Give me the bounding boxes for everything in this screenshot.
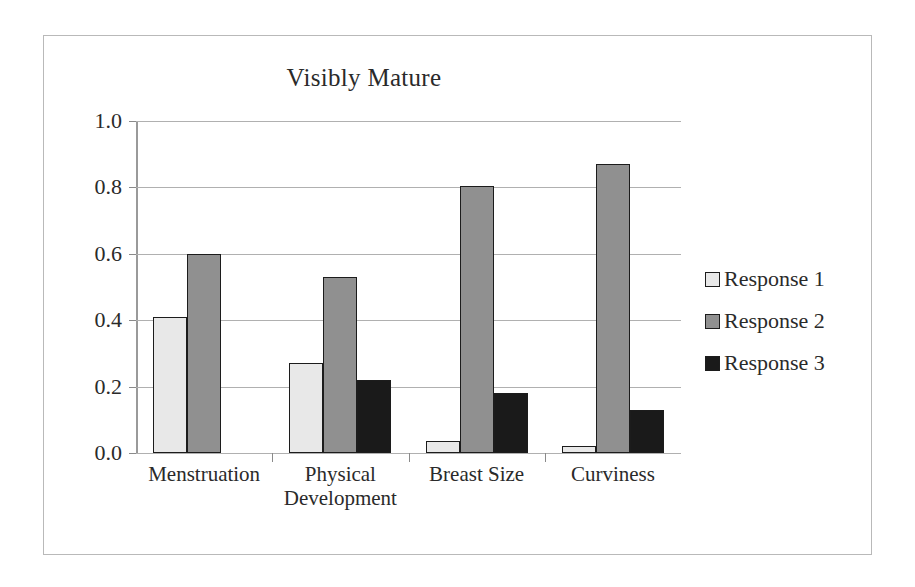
y-axis-label-0.6: 0.6 <box>95 241 123 267</box>
y-tick-0.0 <box>129 453 136 454</box>
bar-group <box>562 121 664 453</box>
chart-legend: Response 1Response 2Response 3 <box>705 266 825 376</box>
bar-group <box>153 121 255 453</box>
chart-title: Visibly Mature <box>44 64 684 92</box>
bar[interactable] <box>289 363 323 453</box>
legend-item[interactable]: Response 3 <box>705 350 825 376</box>
category-label-line: Development <box>284 487 397 511</box>
bar-group <box>426 121 528 453</box>
bar[interactable] <box>357 380 391 453</box>
bar[interactable] <box>630 410 664 453</box>
category-label-line: Menstruation <box>148 463 260 487</box>
bar[interactable] <box>153 317 187 453</box>
category-label-line: Physical <box>284 463 397 487</box>
y-axis-line <box>136 121 138 453</box>
category-separator-tick <box>272 453 273 462</box>
legend-label: Response 2 <box>724 308 825 334</box>
bar[interactable] <box>426 441 460 453</box>
chart-frame: Visibly Mature 0.00.20.40.60.81.0 Menstr… <box>43 35 872 555</box>
x-axis-label-menstruation: Menstruation <box>148 463 260 487</box>
x-axis-label-physical-development: PhysicalDevelopment <box>284 463 397 511</box>
legend-item[interactable]: Response 1 <box>705 266 825 292</box>
legend-swatch-icon <box>705 314 720 329</box>
legend-swatch-icon <box>705 272 720 287</box>
y-axis-label-0.2: 0.2 <box>95 374 123 400</box>
category-separator-tick <box>545 453 546 462</box>
bar-group <box>289 121 391 453</box>
x-axis-label-breast-size: Breast Size <box>429 463 524 487</box>
legend-swatch-icon <box>705 356 720 371</box>
y-tick-0.8 <box>129 187 136 188</box>
bar[interactable] <box>562 446 596 453</box>
y-tick-1.0 <box>129 121 136 122</box>
y-tick-0.2 <box>129 387 136 388</box>
category-label-line: Breast Size <box>429 463 524 487</box>
legend-label: Response 3 <box>724 350 825 376</box>
y-tick-0.6 <box>129 254 136 255</box>
plot-area: 0.00.20.40.60.81.0 MenstruationPhysicalD… <box>136 121 681 453</box>
y-axis-label-0.8: 0.8 <box>95 174 123 200</box>
legend-label: Response 1 <box>724 266 825 292</box>
legend-item[interactable]: Response 2 <box>705 308 825 334</box>
y-axis-label-1.0: 1.0 <box>95 108 123 134</box>
bar[interactable] <box>460 186 494 453</box>
bar[interactable] <box>494 393 528 453</box>
y-tick-0.4 <box>129 320 136 321</box>
category-separator-tick <box>409 453 410 462</box>
bar[interactable] <box>596 164 630 453</box>
y-axis-label-0.4: 0.4 <box>95 307 123 333</box>
y-axis-label-0.0: 0.0 <box>95 440 123 466</box>
bar[interactable] <box>323 277 357 453</box>
x-axis-label-curviness: Curviness <box>571 463 655 487</box>
bar[interactable] <box>187 254 221 453</box>
category-label-line: Curviness <box>571 463 655 487</box>
